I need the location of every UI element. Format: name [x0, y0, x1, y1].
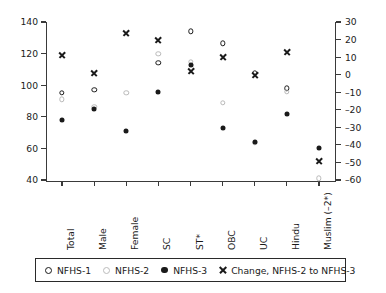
right-tick [336, 21, 341, 22]
legend-label: Change, NFHS-2 to NFHS-3 [231, 265, 355, 276]
data-point-change-nfhs-2-to-nfhs-3 [58, 51, 66, 59]
chart-container: 406080100120140 –60–50–40–30–20–10010203… [0, 0, 386, 293]
legend-item-nfhs-2: NFHS-2 [102, 265, 149, 276]
data-point-change-nfhs-2-to-nfhs-3 [283, 48, 291, 56]
data-point-nfhs-3 [124, 129, 129, 134]
data-point-change-nfhs-2-to-nfhs-3 [315, 157, 323, 165]
x-axis-label-st: ST* [195, 234, 204, 250]
data-point-change-nfhs-2-to-nfhs-3 [251, 71, 259, 79]
data-point-nfhs-3 [316, 146, 321, 151]
data-point-nfhs-3 [284, 111, 289, 116]
x-tick [254, 181, 255, 186]
x-axis-label-hindu: Hindu [291, 223, 300, 250]
legend-label: NFHS-1 [57, 265, 91, 276]
right-tick [336, 144, 341, 145]
data-point-change-nfhs-2-to-nfhs-3 [90, 69, 98, 77]
x-axis-label-muslim-2: Muslim (–2*) [323, 192, 332, 250]
right-axis-line [335, 22, 336, 181]
left-tick-label: 60 [26, 144, 38, 153]
x-axis-label-total: Total [66, 229, 75, 250]
x-tick [158, 181, 159, 186]
left-tick-label: 40 [26, 175, 38, 184]
x-tick [286, 181, 287, 186]
right-tick-label: –40 [345, 140, 361, 149]
legend-marker-glyph [45, 267, 52, 274]
x-cross-icon [218, 266, 227, 275]
x-axis-label-female: Female [130, 217, 139, 250]
legend-marker-glyph [103, 267, 110, 274]
open-circle-icon [44, 266, 53, 275]
right-tick [336, 57, 341, 58]
right-tick-label: –60 [345, 175, 361, 184]
legend-item-nfhs-1: NFHS-1 [44, 265, 91, 276]
right-tick [336, 162, 341, 163]
chart-legend: NFHS-1NFHS-2NFHS-3Change, NFHS-2 to NFHS… [35, 258, 346, 282]
left-tick-label: 140 [20, 17, 38, 26]
right-tick-label: 0 [345, 70, 351, 79]
right-tick [336, 92, 341, 93]
right-tick [336, 127, 341, 128]
x-axis-label-obc: OBC [227, 230, 236, 250]
x-tick [318, 181, 319, 186]
data-point-change-nfhs-2-to-nfhs-3 [122, 29, 130, 37]
x-axis-label-male: Male [98, 228, 107, 250]
light-circle-icon [102, 266, 111, 275]
plot-area [46, 22, 335, 180]
x-tick [126, 181, 127, 186]
left-tick-label: 80 [26, 112, 38, 121]
left-tick-label: 120 [20, 49, 38, 58]
legend-item-change-nfhs-2-to-nfhs-3: Change, NFHS-2 to NFHS-3 [218, 265, 355, 276]
x-tick [61, 181, 62, 186]
left-tick-label: 100 [20, 81, 38, 90]
data-point-change-nfhs-2-to-nfhs-3 [154, 36, 162, 44]
data-point-nfhs-3 [60, 117, 65, 122]
right-tick [336, 74, 341, 75]
legend-label: NFHS-2 [115, 265, 149, 276]
data-point-nfhs-3 [252, 140, 257, 145]
legend-item-nfhs-3: NFHS-3 [160, 265, 207, 276]
right-tick-label: –50 [345, 158, 361, 167]
x-tick [94, 181, 95, 186]
right-tick-label: –10 [345, 88, 361, 97]
filled-circle-icon [160, 266, 169, 275]
legend-marker-glyph [161, 267, 168, 274]
data-point-nfhs-3 [220, 125, 225, 130]
right-tick-label: –20 [345, 105, 361, 114]
right-tick-label: –30 [345, 123, 361, 132]
data-point-change-nfhs-2-to-nfhs-3 [219, 53, 227, 61]
x-tick [190, 181, 191, 186]
right-tick-label: 10 [345, 53, 357, 62]
right-tick [336, 109, 341, 110]
legend-label: NFHS-3 [173, 265, 207, 276]
data-point-change-nfhs-2-to-nfhs-3 [187, 67, 195, 75]
x-axis-label-sc: SC [162, 238, 171, 250]
data-point-nfhs-3 [156, 89, 161, 94]
x-axis-label-uc: UC [259, 237, 268, 250]
right-tick-label: 30 [345, 17, 357, 26]
right-tick [336, 39, 341, 40]
x-tick [222, 181, 223, 186]
data-point-nfhs-3 [92, 106, 97, 111]
right-tick-label: 20 [345, 35, 357, 44]
right-tick [336, 179, 341, 180]
